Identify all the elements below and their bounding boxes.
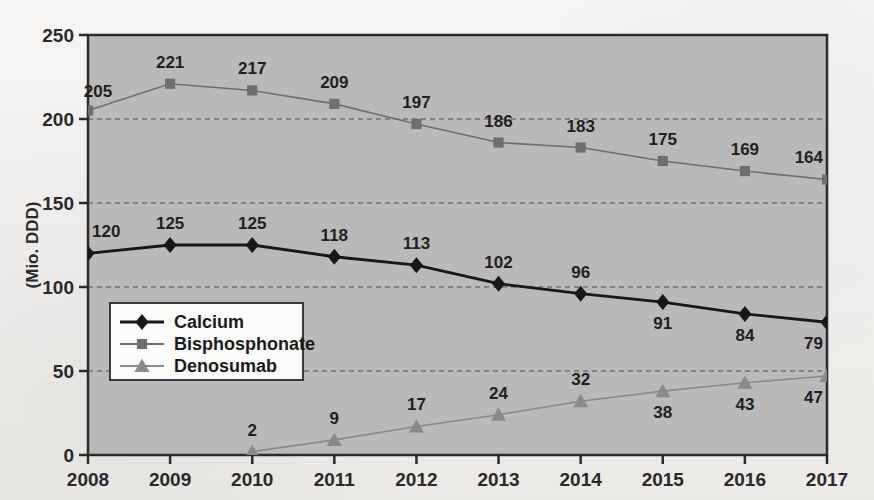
chart-figure: 050100150200250 200820092010201120122013… <box>0 0 874 500</box>
data-point-marker <box>658 156 668 166</box>
x-tick-label: 2012 <box>395 469 437 490</box>
data-value-label: 84 <box>735 326 754 345</box>
data-value-label: 32 <box>571 370 590 389</box>
data-value-label: 197 <box>402 93 430 112</box>
data-value-label: 221 <box>156 53 184 72</box>
x-tick-label: 2009 <box>149 469 191 490</box>
data-point-marker <box>822 174 832 184</box>
data-value-label: 120 <box>92 222 120 241</box>
data-value-label: 43 <box>735 395 754 414</box>
y-tick-label: 150 <box>42 193 74 214</box>
data-point-marker <box>137 339 147 349</box>
data-value-label: 169 <box>731 140 759 159</box>
data-value-label: 79 <box>804 334 823 353</box>
chart-legend: CalciumBisphosphonateDenosumab <box>110 303 315 380</box>
y-tick-label: 200 <box>42 109 74 130</box>
data-value-label: 24 <box>489 384 508 403</box>
x-axis: 2008200920102011201220132014201520162017 <box>67 455 848 490</box>
x-tick-label: 2013 <box>477 469 519 490</box>
y-tick-label: 50 <box>53 361 74 382</box>
data-value-label: 113 <box>403 234 430 253</box>
x-tick-label: 2011 <box>314 469 356 490</box>
data-value-label: 209 <box>320 73 348 92</box>
data-point-marker <box>740 166 750 176</box>
y-tick-label: 100 <box>42 277 74 298</box>
data-value-label: 2 <box>247 421 256 440</box>
data-value-label: 164 <box>795 148 824 167</box>
data-value-label: 125 <box>156 214 184 233</box>
legend-label-bisphosphonate: Bisphosphonate <box>174 334 315 354</box>
data-value-label: 125 <box>238 214 266 233</box>
data-value-label: 118 <box>321 226 348 245</box>
line-chart: 050100150200250 200820092010201120122013… <box>0 0 874 500</box>
y-axis: 050100150200250 <box>42 25 88 466</box>
data-point-marker <box>411 119 421 129</box>
data-value-label: 91 <box>653 314 672 333</box>
legend-label-denosumab: Denosumab <box>174 356 277 376</box>
data-value-label: 102 <box>484 253 512 272</box>
data-point-marker <box>329 99 339 109</box>
x-tick-label: 2016 <box>724 469 766 490</box>
y-tick-label: 0 <box>63 445 74 466</box>
x-tick-label: 2014 <box>560 469 603 490</box>
data-value-label: 186 <box>484 112 512 131</box>
legend-label-calcium: Calcium <box>174 312 244 332</box>
data-value-label: 47 <box>804 388 823 407</box>
x-tick-label: 2008 <box>67 469 109 490</box>
data-point-marker <box>247 85 257 95</box>
x-tick-label: 2010 <box>231 469 273 490</box>
data-value-label: 175 <box>649 130 677 149</box>
data-value-label: 17 <box>407 395 426 414</box>
data-value-label: 9 <box>330 409 339 428</box>
y-axis-title: (Mio. DDD) <box>23 202 42 289</box>
data-value-label: 205 <box>84 82 112 101</box>
data-point-marker <box>493 137 503 147</box>
x-tick-label: 2017 <box>806 469 848 490</box>
data-point-marker <box>165 79 175 89</box>
data-value-label: 217 <box>238 59 266 78</box>
x-tick-label: 2015 <box>642 469 685 490</box>
data-point-marker <box>83 106 93 116</box>
data-value-label: 96 <box>571 263 590 282</box>
data-value-label: 183 <box>566 117 594 136</box>
data-value-label: 38 <box>653 403 672 422</box>
data-point-marker <box>576 142 586 152</box>
y-tick-label: 250 <box>42 25 74 46</box>
